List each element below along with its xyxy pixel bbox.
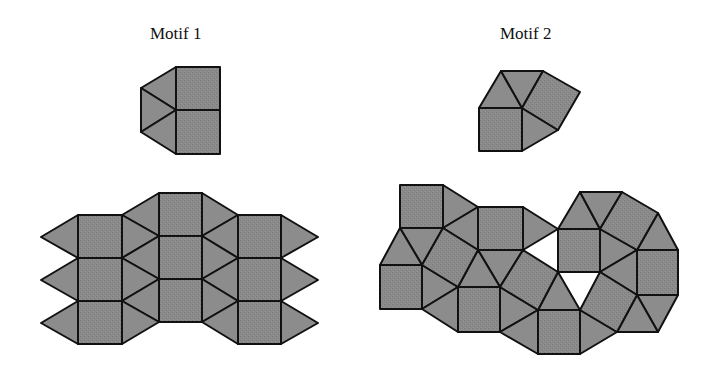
square-shape: [159, 193, 202, 236]
triangle-shape: [523, 207, 558, 250]
motif-1: [141, 67, 220, 154]
tiling-1: [41, 193, 318, 344]
square-shape: [176, 67, 220, 110]
tiling-2: [380, 185, 678, 354]
square-shape: [159, 236, 202, 279]
figure-canvas: Motif 1 Motif 2: [0, 0, 714, 373]
square-shape: [78, 215, 122, 258]
triangle-shape: [41, 258, 78, 301]
square-shape: [538, 310, 580, 354]
square-shape: [159, 279, 202, 322]
square-shape: [637, 250, 678, 295]
square-shape: [479, 108, 522, 151]
tiling-diagram: [0, 0, 714, 373]
square-shape: [238, 215, 281, 258]
square-shape: [558, 229, 600, 272]
square-shape: [478, 207, 523, 250]
triangle-shape: [281, 258, 318, 301]
square-shape: [78, 258, 122, 301]
square-shape: [238, 301, 281, 344]
triangle-shape: [281, 215, 318, 258]
triangle-shape: [41, 301, 78, 344]
triangle-shape: [281, 301, 318, 344]
motif-2: [479, 71, 580, 151]
square-shape: [458, 287, 500, 332]
square-shape: [400, 185, 443, 228]
square-shape: [380, 265, 422, 309]
triangle-shape: [41, 215, 78, 258]
square-shape: [78, 301, 122, 344]
square-shape: [238, 258, 281, 301]
square-shape: [176, 110, 220, 154]
